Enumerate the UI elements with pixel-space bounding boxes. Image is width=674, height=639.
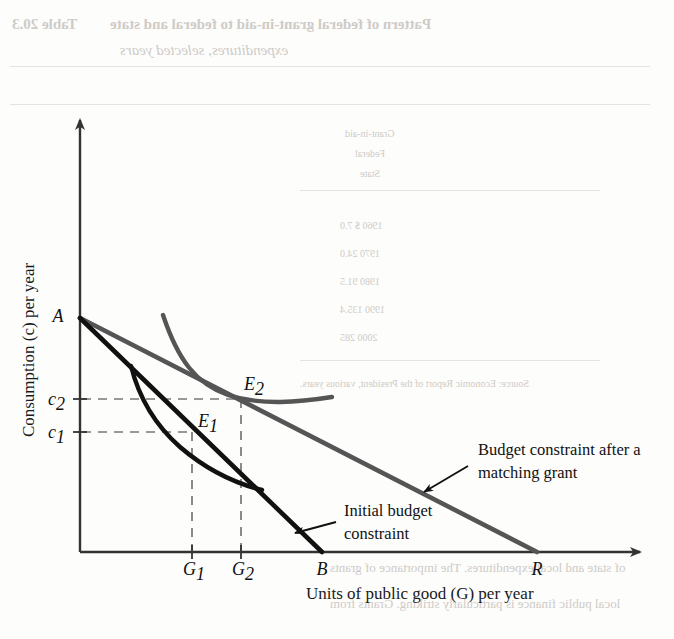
label-c1-base: c [48,422,56,442]
matching-grant-annotation: Budget constraint after a matching grant [424,440,641,492]
label-c1: c1 [48,422,65,447]
label-point-e2-sub: 2 [255,379,264,399]
matching-grant-annotation-line1: Budget constraint after a [478,440,641,459]
label-point-e2: E2 [243,374,264,399]
label-g1-base: G [183,559,196,579]
y-axis-title: Consumption (c) per year [19,263,38,438]
matching-grant-budget-line [80,318,537,552]
label-point-e1-base: E [197,411,209,431]
x-axis-title-before: Units of public good ( [306,584,456,603]
initial-budget-annotation-line1: Initial budget [344,501,433,520]
label-c2: c2 [48,389,65,414]
y-axis-title-before: Consumption ( [19,335,38,437]
label-g2-base: G [232,559,245,579]
initial-budget-annotation: Initial budget constraint [295,501,433,543]
label-intercept-r: R [531,559,543,579]
svg-text:G1: G1 [183,559,205,584]
label-g1: G1 [183,559,205,584]
svg-text:Consumption (c) per year: Consumption (c) per year [19,263,38,438]
initial-budget-line [80,318,322,552]
axes-group [80,120,640,552]
label-point-e1-sub: 1 [209,416,218,436]
x-axis-title-after: ) per year [468,584,533,603]
x-axis-title: Units of public good (G) per year [306,584,534,603]
svg-text:E2: E2 [243,374,264,399]
x-axis-title-variable: G [456,584,468,603]
figure-container: Table 20.3 Pattern of federal grant-in-a… [0,0,674,639]
label-g1-sub: 1 [196,564,205,584]
matching-grant-annotation-line2: matching grant [478,463,578,482]
label-g2: G2 [232,559,254,584]
svg-text:c2: c2 [48,389,65,414]
svg-text:G2: G2 [232,559,254,584]
matching-grant-leader-arrow [424,466,468,492]
label-intercept-b: B [317,559,328,579]
label-g2-sub: 2 [245,564,254,584]
svg-text:Units of public good (G) per y: Units of public good (G) per year [306,584,534,603]
label-c2-base: c [48,389,56,409]
y-axis-title-after: ) per year [19,263,38,328]
initial-budget-leader-arrow [295,522,336,533]
svg-text:c1: c1 [48,422,65,447]
label-point-e2-base: E [243,374,255,394]
label-point-a: A [52,306,65,326]
label-c2-sub: 2 [56,394,65,414]
initial-budget-annotation-line2: constraint [344,524,409,543]
label-c1-sub: 1 [56,427,65,447]
